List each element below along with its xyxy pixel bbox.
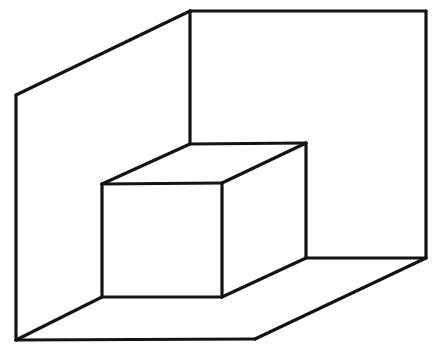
figure-canvas — [0, 0, 438, 353]
box-top-front — [102, 183, 222, 184]
box-front-face — [102, 183, 222, 297]
line-drawing-svg — [0, 0, 438, 353]
box-top-back — [190, 143, 306, 144]
floor-front-left — [16, 339, 255, 340]
